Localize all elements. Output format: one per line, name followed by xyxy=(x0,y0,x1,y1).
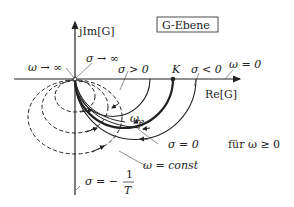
fraction-denominator: T xyxy=(124,184,133,197)
sigma-inf-label: σ → ∞ xyxy=(86,52,119,65)
sigma-minus-label: σ = − xyxy=(85,175,118,188)
omega-zero-label: ω = 0 xyxy=(229,58,261,71)
fraction-numerator: 1 xyxy=(126,168,133,181)
K-point xyxy=(171,77,176,82)
imag-axis-label: jIm[G] xyxy=(77,25,115,38)
title-label: G-Ebene xyxy=(162,19,210,32)
omega-inf-label: ω → ∞ xyxy=(28,61,62,74)
omega-const-label: ω = const xyxy=(143,159,199,172)
g-plane-diagram: G-Ebene jIm[G] Re[G] ω → ∞ σ → ∞ σ > 0 K… xyxy=(0,0,294,207)
sigma-zero-label: σ = 0 xyxy=(168,138,199,151)
sigma-pos-label: σ > 0 xyxy=(118,63,149,76)
for-omega-label: für ω ≥ 0 xyxy=(228,138,280,151)
K-label: K xyxy=(171,63,181,76)
omega-e-label: ωe xyxy=(130,112,144,127)
real-axis-label: Re[G] xyxy=(205,88,237,101)
sigma-neg-label: σ < 0 xyxy=(191,63,222,76)
